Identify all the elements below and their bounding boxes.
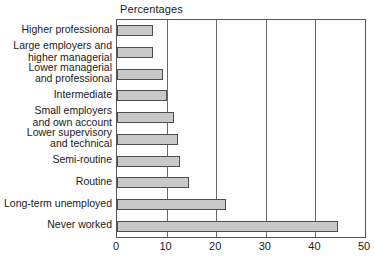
x-tick-label-40: 40 xyxy=(308,240,320,252)
category-label: Lower supervisory and technical xyxy=(27,127,112,150)
category-label: Long-term unemployed xyxy=(4,198,112,210)
x-tick-label-10: 10 xyxy=(159,240,171,252)
bar xyxy=(117,90,167,101)
category-label: Semi-routine xyxy=(52,154,112,166)
bar xyxy=(117,69,163,80)
bar-row xyxy=(117,112,365,123)
bars-layer xyxy=(117,20,365,237)
x-tick-label-30: 30 xyxy=(259,240,271,252)
bar-row xyxy=(117,90,365,101)
category-axis-labels: Higher professionalLarge employers and h… xyxy=(0,19,114,238)
bar xyxy=(117,199,226,210)
x-tick-label-20: 20 xyxy=(209,240,221,252)
bar xyxy=(117,47,153,58)
bar xyxy=(117,156,180,167)
bar-row xyxy=(117,199,365,210)
bar-row xyxy=(117,221,365,232)
x-tick-label-0: 0 xyxy=(113,240,119,252)
plot-area xyxy=(116,19,366,238)
bar xyxy=(117,134,178,145)
category-label: Higher professional xyxy=(22,24,112,36)
category-label: Small employers and own account xyxy=(33,105,112,128)
chart-title: Percentages xyxy=(120,3,183,15)
category-label: Lower managerial and professional xyxy=(29,62,112,85)
bar xyxy=(117,112,174,123)
x-tick-label-50: 50 xyxy=(358,240,370,252)
bar xyxy=(117,177,189,188)
category-label: Never worked xyxy=(47,219,112,231)
value-axis-labels: 01020304050 xyxy=(116,240,366,260)
bar-row xyxy=(117,25,365,36)
percentages-bar-chart: Percentages Higher professionalLarge emp… xyxy=(0,0,374,263)
bar-row xyxy=(117,134,365,145)
bar xyxy=(117,221,338,232)
bar-row xyxy=(117,156,365,167)
category-label: Large employers and higher managerial xyxy=(13,40,112,63)
bar xyxy=(117,25,153,36)
category-label: Routine xyxy=(76,176,112,188)
category-label: Intermediate xyxy=(54,89,112,101)
bar-row xyxy=(117,47,365,58)
bar-row xyxy=(117,177,365,188)
bar-row xyxy=(117,69,365,80)
